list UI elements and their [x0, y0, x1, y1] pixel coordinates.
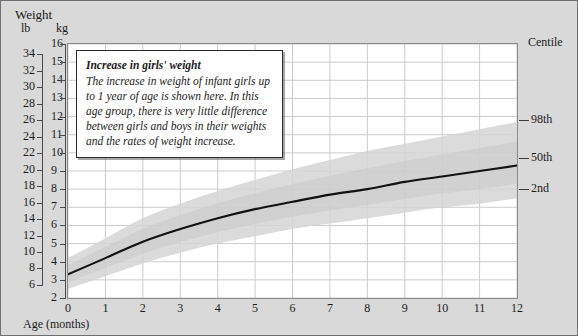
y-tick-mark-kg [60, 298, 66, 299]
y-tick-mark-lb [37, 285, 43, 286]
x-tick: 0 [58, 301, 78, 316]
callout-body: The increase in weight of infant girls u… [86, 74, 273, 149]
centile-tick [519, 120, 529, 121]
y-tick-lb: 20 [9, 162, 35, 177]
x-tick: 4 [208, 301, 228, 316]
x-tick: 9 [395, 301, 415, 316]
centile-label: 98th [531, 112, 552, 127]
x-tick: 11 [470, 301, 490, 316]
y-tick-lb: 18 [9, 178, 35, 193]
centile-label: 50th [531, 150, 552, 165]
centile-tick [519, 189, 529, 190]
y-tick-lb: 12 [9, 228, 35, 243]
y-tick-lb: 6 [9, 277, 35, 292]
x-tick: 5 [245, 301, 265, 316]
x-tick: 8 [357, 301, 377, 316]
y-tick-lb: 34 [9, 46, 35, 61]
y-tick-kg: 5 [51, 236, 57, 251]
y-tick-lb: 10 [9, 244, 35, 259]
y-tick-kg: 6 [51, 217, 57, 232]
y-tick-lb: 26 [9, 112, 35, 127]
callout-box: Increase in girls' weight The increase i… [76, 50, 283, 158]
centile-axis-title: Centile [528, 35, 563, 50]
chart-frame: Weight lb kg Centile Age (months) 681012… [0, 0, 578, 336]
y-tick-kg: 7 [51, 199, 57, 214]
y-tick-lb: 8 [9, 260, 35, 275]
y-tick-kg: 4 [51, 254, 57, 269]
y-tick-lb: 32 [9, 63, 35, 78]
y-tick-lb: 30 [9, 79, 35, 94]
x-tick: 10 [432, 301, 452, 316]
y-tick-lb: 24 [9, 129, 35, 144]
y-axis-lb-labels: 6810121416182022242628303234 [9, 1, 35, 336]
y-tick-lb: 22 [9, 145, 35, 160]
x-tick: 1 [95, 301, 115, 316]
y-tick-lb: 16 [9, 195, 35, 210]
x-tick: 12 [507, 301, 527, 316]
y-tick-lb: 28 [9, 96, 35, 111]
centile-tick [519, 158, 529, 159]
y-tick-lb: 14 [9, 211, 35, 226]
y-tick-kg: 2 [51, 290, 57, 305]
x-tick: 3 [170, 301, 190, 316]
x-tick: 7 [320, 301, 340, 316]
x-tick: 6 [283, 301, 303, 316]
y-tick-kg: 3 [51, 272, 57, 287]
kg-axis-rail [65, 44, 66, 298]
lb-axis-rail [42, 54, 43, 284]
y-tick-kg: 8 [51, 181, 57, 196]
centile-label: 2nd [531, 181, 549, 196]
callout-title: Increase in girls' weight [86, 58, 273, 72]
x-tick: 2 [133, 301, 153, 316]
y-tick-kg: 9 [51, 163, 57, 178]
